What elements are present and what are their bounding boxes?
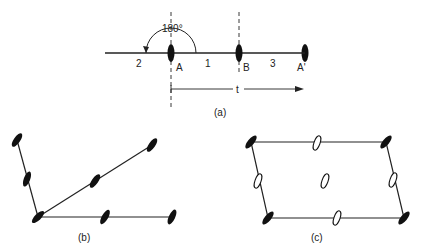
- twofold-axis-icon: [88, 173, 102, 190]
- point-label-b: B: [243, 62, 250, 73]
- segment-label-3: 3: [270, 58, 276, 69]
- panel-a: 180° A B A' 2 1 3 t (a): [105, 12, 309, 118]
- translation-label: t: [236, 84, 239, 95]
- angle-label: 180°: [162, 23, 183, 34]
- twofold-axis-icon: [10, 132, 24, 149]
- panel-b: (b): [10, 132, 178, 243]
- point-label-a: A: [176, 62, 183, 73]
- caption-c: (c): [311, 232, 323, 243]
- twofold-axis-b-icon: [236, 44, 243, 62]
- segment-label-2: 2: [136, 58, 142, 69]
- twofold-axis-icon: [145, 137, 159, 154]
- symmetry-diagram: 180° A B A' 2 1 3 t (a) (b): [0, 0, 422, 247]
- twofold-axis-edge-icon: [312, 135, 323, 151]
- panel-c: (c): [243, 134, 411, 243]
- twofold-axis-edge-icon: [253, 173, 264, 189]
- point-label-a-prime: A': [297, 62, 306, 73]
- twofold-axis-a-icon: [168, 44, 175, 62]
- arc-arrowhead-icon: [143, 46, 149, 53]
- caption-a: (a): [214, 107, 226, 118]
- segment-label-1: 1: [205, 58, 211, 69]
- twofold-axis-center-icon: [320, 173, 331, 189]
- twofold-axis-icon: [21, 170, 32, 187]
- translation-arrowhead-icon: [295, 86, 304, 92]
- caption-b: (b): [78, 232, 90, 243]
